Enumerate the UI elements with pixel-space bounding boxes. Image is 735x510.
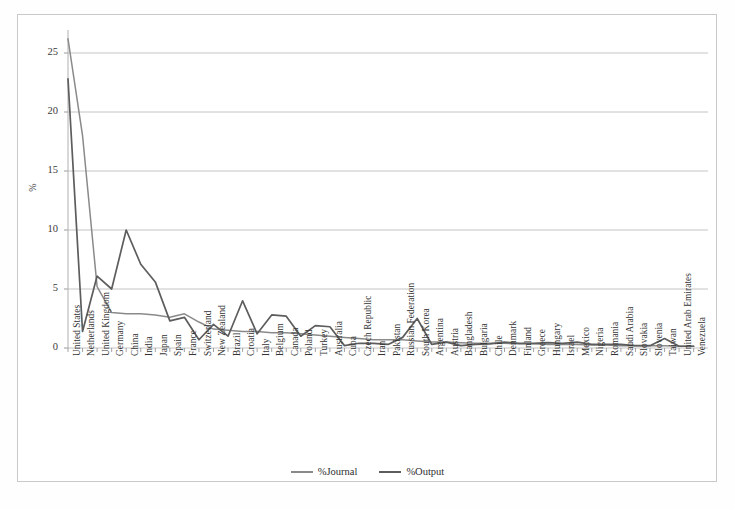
x-axis-tick-label: Germany — [115, 321, 125, 356]
chart-legend: %Journal%Output — [0, 466, 735, 477]
x-axis-tick-label: Bulgaria — [479, 323, 489, 356]
x-axis-tick-label: Poland — [304, 330, 314, 356]
x-axis-tick-label: Slovenia — [654, 323, 664, 356]
chart-figure: 0510152025 % United StatesNetherlandsUni… — [0, 0, 735, 510]
x-axis-tick-label: Slovakia — [639, 323, 649, 356]
x-axis-tick-label: Turkey — [319, 329, 329, 356]
x-axis-tick-label: Russian Federation — [406, 283, 416, 356]
x-axis-tick-label: Greece — [537, 329, 547, 356]
gridlines — [64, 53, 708, 348]
x-axis-tick-label: New Zealand — [217, 305, 227, 356]
x-axis-tick-label: France — [188, 330, 198, 356]
series-lines — [68, 39, 694, 346]
x-axis-tick-label: Netherlands — [86, 310, 96, 356]
x-axis-tick-label: Austria — [450, 328, 460, 356]
x-axis-tick-label: Bangladesh — [464, 312, 474, 356]
x-axis-tick-label: Argentina — [435, 318, 445, 356]
x-axis-tick-label: Australia — [334, 321, 344, 356]
legend-entry: %Output — [379, 466, 444, 477]
x-axis-tick-label: Czech Republic — [363, 295, 373, 356]
x-axis-tick-label: Saudi Arabia — [625, 307, 635, 356]
x-axis-tick-label: Hungary — [552, 323, 562, 356]
x-axis-tick-label: Venezuela — [697, 317, 707, 356]
legend-swatch-icon — [379, 471, 401, 473]
series-line-output — [68, 79, 694, 346]
y-axis-tick-label: 25 — [32, 46, 58, 57]
y-axis-tick-label: 15 — [32, 164, 58, 175]
x-axis-tick-label: Cuba — [348, 336, 358, 356]
legend-label: %Output — [406, 466, 444, 477]
x-axis-tick-label: China — [130, 333, 140, 356]
x-axis-tick-label: India — [144, 336, 154, 356]
x-axis-tick-label: United Arab Emirates — [683, 273, 693, 356]
x-axis-tick-label: Canada — [290, 328, 300, 356]
x-axis-tick-label: Iran — [377, 341, 387, 356]
y-axis-tick-label: 0 — [32, 341, 58, 352]
line-chart-plot — [0, 0, 735, 510]
y-axis-tick-label: 20 — [32, 105, 58, 116]
x-axis-tick-label: Italy — [261, 338, 271, 356]
x-axis-tick-label: Croatia — [246, 328, 256, 356]
x-axis-tick-label: Mexico — [581, 327, 591, 356]
legend-label: %Journal — [318, 466, 358, 477]
x-axis-tick-label: Denmark — [508, 321, 518, 356]
x-axis-tick-label: United States — [72, 305, 82, 356]
x-axis-tick-label: Nigeria — [595, 327, 605, 356]
x-axis-tick-label: Chile — [494, 335, 504, 356]
legend-entry: %Journal — [291, 466, 358, 477]
x-axis-tick-label: Japan — [159, 334, 169, 356]
x-axis-tick-label: Spain — [173, 334, 183, 356]
x-axis-tick-label: Pakistan — [392, 324, 402, 356]
y-axis-tick-label: 10 — [32, 223, 58, 234]
x-axis-tick-label: Finland — [523, 327, 533, 356]
y-axis-title: % — [27, 183, 38, 191]
x-axis-tick-label: Switzerland — [203, 310, 213, 356]
x-axis-tick-label: South Korea — [421, 308, 431, 356]
x-axis-tick-label: Brazil — [232, 333, 242, 356]
x-axis-tick-label: Belgium — [275, 323, 285, 356]
x-axis-tick-label: Taiwan — [668, 328, 678, 356]
legend-swatch-icon — [291, 471, 313, 473]
y-axis-tick-label: 5 — [32, 282, 58, 293]
x-axis-tick-label: Romania — [610, 322, 620, 356]
x-axis-tick-label: United Kingdom — [101, 292, 111, 356]
x-axis-tick-label: Israel — [566, 335, 576, 356]
